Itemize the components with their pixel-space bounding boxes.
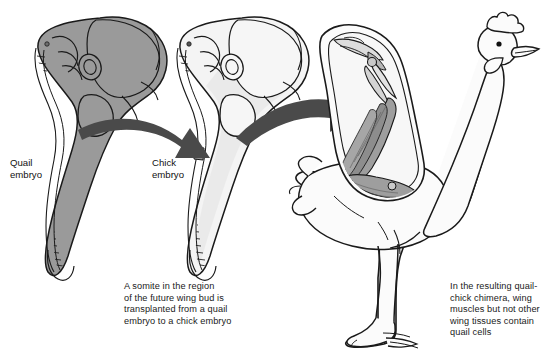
chicken-neck <box>424 56 504 237</box>
chick-otic-dot <box>187 42 191 46</box>
quail-embryo-illustration <box>35 17 167 280</box>
wing-elbow-joint <box>368 58 377 67</box>
quail-otic-dot <box>45 42 49 46</box>
chicken-eye <box>496 41 501 46</box>
caption-transplant: A somite in the region of the future win… <box>124 281 231 327</box>
wing-shoulder-joint <box>388 182 396 190</box>
caption-result: In the resulting quail- chick chimera, w… <box>450 281 558 339</box>
figure-root: Quail embryo Chick embryo A somite in th… <box>0 0 559 358</box>
chicken-comb <box>487 12 524 33</box>
label-quail-embryo: Quail embryo <box>10 157 42 181</box>
label-chick-embryo: Chick embryo <box>152 157 184 181</box>
